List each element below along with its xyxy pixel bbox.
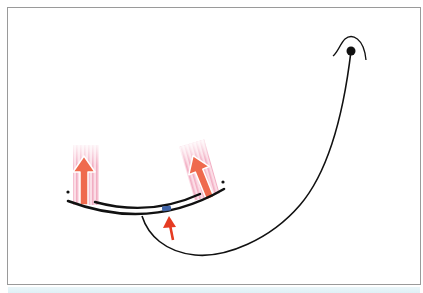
anchor-dot [347, 47, 356, 56]
left-end-dot [66, 190, 69, 193]
right-end-dot [221, 180, 224, 183]
blue-marker [162, 205, 171, 211]
diagram-canvas [0, 0, 423, 293]
force-arrow-icon [163, 216, 176, 240]
